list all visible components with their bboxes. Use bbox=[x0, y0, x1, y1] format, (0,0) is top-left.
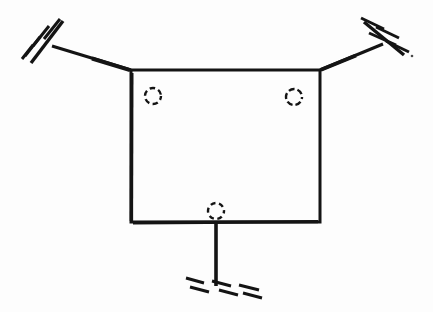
support-bottom-hatch-6 bbox=[243, 293, 262, 298]
structural-sketch bbox=[0, 0, 433, 312]
support-bottom-hatch-5 bbox=[239, 285, 259, 290]
support-bottom-hatch-2 bbox=[190, 287, 209, 292]
plate-holes bbox=[145, 88, 302, 219]
members bbox=[52, 44, 383, 286]
diagonal-member-left-weight bbox=[92, 59, 130, 71]
ink-speck-right bbox=[411, 55, 414, 58]
hole-top-right-icon bbox=[286, 89, 302, 105]
support-upper-left bbox=[22, 19, 63, 63]
hole-bottom-center-icon bbox=[208, 203, 224, 219]
support-bottom bbox=[186, 278, 262, 298]
hole-top-left-icon bbox=[145, 88, 161, 104]
support-bottom-hatch-1 bbox=[186, 278, 204, 283]
plate-edge-bottom-weight bbox=[133, 222, 318, 223]
support-upper-left-hatch-4 bbox=[22, 45, 33, 59]
drawing-canvas bbox=[0, 0, 433, 312]
diagonal-member-right-weight bbox=[321, 56, 356, 70]
support-bottom-hatch-4 bbox=[219, 290, 238, 295]
